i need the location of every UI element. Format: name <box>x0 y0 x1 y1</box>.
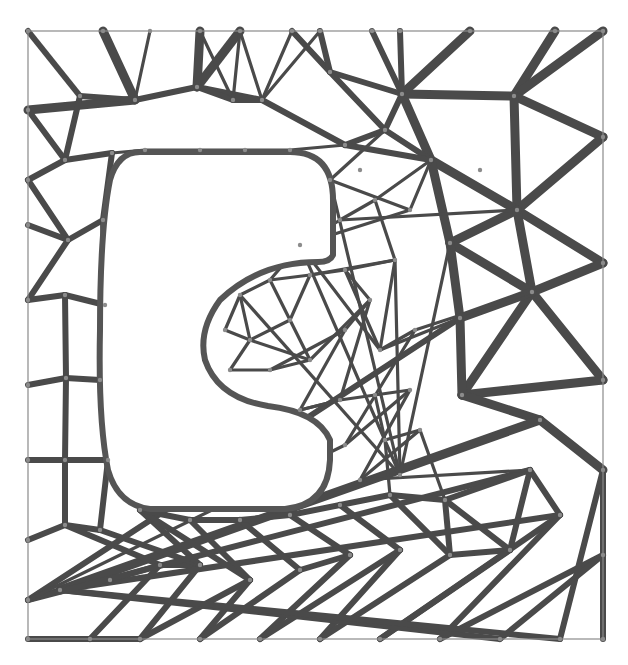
strut <box>375 200 395 260</box>
mesh-node <box>343 328 347 332</box>
mesh-node <box>343 143 347 147</box>
strut <box>66 378 100 380</box>
mesh-node <box>358 478 362 482</box>
mesh-node <box>378 348 382 352</box>
mesh-node <box>478 168 482 172</box>
mesh-node <box>228 368 232 372</box>
mesh-node <box>268 278 272 282</box>
mesh-node <box>248 338 252 342</box>
strut <box>225 330 250 340</box>
mesh-node <box>338 218 342 222</box>
mesh-node <box>133 98 137 102</box>
mesh-node <box>528 468 532 472</box>
mesh-node <box>66 238 70 242</box>
strut <box>540 420 603 470</box>
strut <box>68 220 103 240</box>
mesh-node <box>138 508 142 512</box>
mesh-node <box>400 92 404 96</box>
strut <box>65 378 66 460</box>
mesh-node <box>458 316 462 320</box>
strut <box>270 280 290 320</box>
mesh-node <box>418 428 422 432</box>
strut <box>380 260 395 350</box>
mesh-node <box>343 268 347 272</box>
strut <box>450 243 532 292</box>
mesh-node <box>408 208 412 212</box>
mesh-node <box>288 318 292 322</box>
strut <box>28 110 65 160</box>
mesh-node <box>231 98 235 102</box>
mesh-node <box>512 94 516 98</box>
strut <box>532 292 603 380</box>
mesh-node <box>530 290 534 294</box>
strut <box>240 31 262 100</box>
strut <box>440 515 560 639</box>
mesh-node <box>398 548 402 552</box>
strut <box>290 275 310 320</box>
mesh-node <box>268 368 272 372</box>
mesh-node <box>443 498 447 502</box>
strut <box>262 31 292 100</box>
strut <box>514 96 517 210</box>
strut <box>450 210 517 243</box>
strut <box>262 31 320 100</box>
mesh-node <box>63 293 67 297</box>
strut <box>385 94 402 130</box>
mesh-node <box>288 513 292 517</box>
strut <box>514 31 603 96</box>
strut <box>400 31 402 94</box>
mesh-node <box>106 458 110 462</box>
mesh-node <box>298 243 302 247</box>
mesh-node <box>383 128 387 132</box>
strut <box>402 94 514 96</box>
strut <box>402 31 470 94</box>
mesh-node <box>515 208 519 212</box>
mesh-node <box>108 578 112 582</box>
mesh-node <box>198 148 202 152</box>
strut <box>395 260 400 475</box>
strut <box>28 525 65 540</box>
mesh-node <box>298 568 302 572</box>
mesh-node <box>188 518 192 522</box>
strut <box>103 31 135 100</box>
mesh-node <box>328 70 332 74</box>
strut <box>230 340 250 370</box>
strut <box>80 96 135 100</box>
mesh-node <box>198 563 202 567</box>
strut <box>65 153 112 160</box>
strut <box>28 378 66 385</box>
mesh-node <box>338 503 342 507</box>
mesh-node <box>298 408 302 412</box>
mesh-node <box>158 563 162 567</box>
mesh-node <box>413 328 417 332</box>
mesh-node <box>103 303 107 307</box>
mesh-node <box>58 588 62 592</box>
mesh-node <box>195 85 199 89</box>
mesh-node <box>248 578 252 582</box>
c-shaped-hole <box>100 152 333 509</box>
mesh-node <box>448 553 452 557</box>
mesh-node <box>460 393 464 397</box>
strut <box>450 243 460 318</box>
strut <box>28 160 65 180</box>
mesh-node <box>388 493 392 497</box>
mesh-node <box>348 553 352 557</box>
strut <box>225 295 240 330</box>
strut <box>28 240 68 300</box>
strut <box>65 295 66 378</box>
strut <box>28 31 80 96</box>
mesh-node <box>393 258 397 262</box>
strut <box>135 87 197 100</box>
truss-mesh-diagram <box>0 0 628 665</box>
mesh-node <box>338 398 342 402</box>
mesh-node <box>308 358 312 362</box>
mesh-node <box>538 418 542 422</box>
mesh-node <box>98 378 102 382</box>
mesh-node <box>260 98 264 102</box>
strut <box>460 318 462 395</box>
mesh-node <box>328 178 332 182</box>
mesh-node <box>243 148 247 152</box>
mesh-node <box>223 328 227 332</box>
strut <box>270 275 310 280</box>
mesh-node <box>64 376 68 380</box>
